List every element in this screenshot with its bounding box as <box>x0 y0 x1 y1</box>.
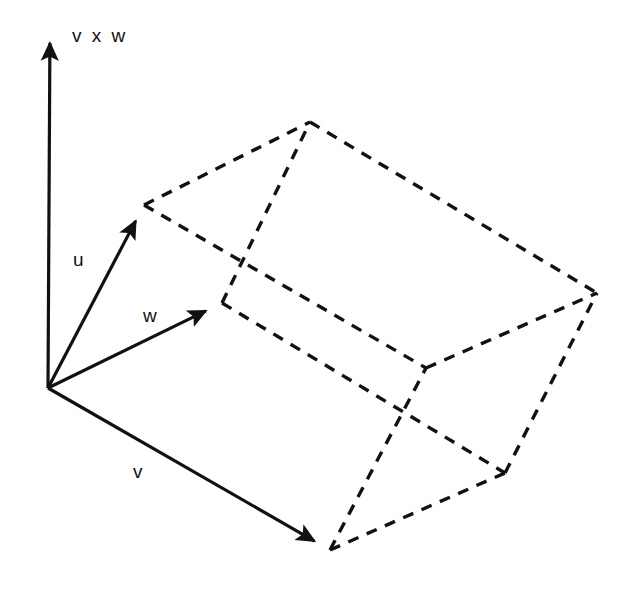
edge-u-to-uw <box>144 122 310 205</box>
vector-v-label: v <box>133 462 143 481</box>
vector-w-label: w <box>143 306 157 325</box>
cross-product-label: v x w <box>72 26 128 45</box>
edge-vw-to-uvw <box>505 293 597 473</box>
edge-uv-to-uvw <box>426 293 597 368</box>
parallelepiped-svg <box>0 0 633 589</box>
edge-uw-to-uvw <box>310 122 597 293</box>
parallelepiped-dashed-edges <box>144 122 597 550</box>
vector-u-arrow <box>48 221 136 388</box>
vector-diagram-figure: v x w u w v <box>0 0 633 589</box>
edge-v-to-vw <box>330 473 505 550</box>
vector-w-arrow <box>48 311 206 388</box>
edge-w-to-vw <box>222 303 505 473</box>
cross-product-axis-arrow <box>48 43 50 388</box>
origin-vectors <box>48 43 314 541</box>
edge-u-to-uv <box>144 205 426 368</box>
vector-v-arrow <box>48 388 314 541</box>
vector-u-label: u <box>73 250 84 269</box>
